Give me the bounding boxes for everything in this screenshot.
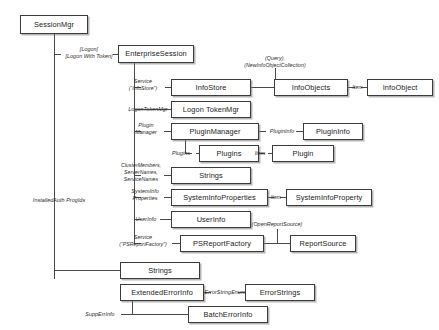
edge-label-cluster-members-line1: ClusterMembers,: [112, 162, 170, 169]
node-error-strings[interactable]: ErrorStrings: [245, 284, 315, 301]
edge-label-open-report-source: (OpenReportSource): [244, 221, 310, 228]
edge-label-query-line1: (Query),: [240, 55, 310, 62]
edge-label-plugin-info: PluginInfo: [263, 128, 301, 135]
edge-label-item-plugin: Item: [250, 150, 270, 157]
edge-label-item-info-object: Item: [348, 84, 367, 91]
edge-label-query-line2: (NewInfoObjectCollection): [240, 62, 310, 69]
node-info-object[interactable]: InfoObject: [367, 79, 433, 96]
edge-label-plugins: Plugins: [166, 150, 196, 157]
node-user-info[interactable]: UserInfo: [171, 211, 251, 228]
edge-label-plugin-manager: Plugin Manager: [124, 122, 168, 136]
node-logon-token-mgr[interactable]: Logon TokenMgr: [171, 101, 251, 118]
edge-label-system-info-properties-line2: Properties: [120, 195, 170, 202]
node-extended-error-info[interactable]: ExtendedErrorInfo: [120, 284, 204, 301]
edge-label-supp-err-info: SuppErrInfo: [79, 311, 121, 318]
edge-label-cluster-members: ClusterMembers, ServerNames, ServiceName…: [112, 162, 170, 182]
node-session-mgr[interactable]: SessionMgr: [20, 15, 88, 34]
edge-label-error-string-enum: ErrorStringEnum: [204, 289, 246, 296]
edge-label-service-infostore-line2: (“InfoStore”): [117, 85, 169, 92]
object-model-diagram: SessionMgr EnterpriseSession InfoStore I…: [0, 0, 439, 330]
edge-label-service-ps-report-factory-line2: (“PSReportFactory”): [106, 241, 180, 248]
edge-label-logon-line1: [Logon]: [61, 46, 117, 53]
node-strings-cluster[interactable]: Strings: [171, 167, 251, 184]
edge-label-item-system-info-property: Item: [266, 194, 286, 201]
node-plugin-info[interactable]: PluginInfo: [303, 123, 363, 140]
edge-label-service-infostore-line1: Service: [117, 78, 169, 85]
edge-label-service-ps-report-factory-line1: Service: [106, 234, 180, 241]
node-system-info-property[interactable]: SystemInfoProperty: [286, 189, 372, 206]
node-batch-error-info[interactable]: BatchErrorInfo: [188, 306, 268, 323]
node-info-store[interactable]: InfoStore: [171, 79, 251, 96]
node-plugin-manager[interactable]: PluginManager: [171, 123, 259, 140]
node-plugin[interactable]: Plugin: [272, 145, 334, 162]
edge-label-service-ps-report-factory: Service (“PSReportFactory”): [106, 234, 180, 248]
edge-label-plugin-manager-line1: Plugin: [124, 122, 168, 129]
node-system-info-properties[interactable]: SystemInfoProperties: [171, 189, 268, 206]
node-strings-auth[interactable]: Strings: [120, 262, 200, 279]
edge-label-logon: [Logon] [Logon With Token]: [61, 46, 117, 60]
edge-label-installed-auth-progids: InstalledAuth ProgIds: [20, 197, 98, 204]
edge-label-system-info-properties-line1: SystemInfo: [120, 188, 170, 195]
edge-label-cluster-members-line3: ServiceNames: [112, 176, 170, 183]
node-enterprise-session[interactable]: EnterpriseSession: [118, 45, 194, 63]
edge-label-logon-line2: [Logon With Token]: [61, 53, 117, 60]
edge-label-plugin-manager-line2: Manager: [124, 129, 168, 136]
edge-label-cluster-members-line2: ServerNames,: [112, 169, 170, 176]
edge-label-user-info: UserInfo: [127, 216, 165, 223]
node-info-objects[interactable]: InfoObjects: [274, 79, 348, 96]
edge-label-system-info-properties: SystemInfo Properties: [120, 188, 170, 202]
edge-label-logon-token-mgr: LogonTokenMgr: [125, 106, 171, 113]
edge-label-service-infostore: Service (“InfoStore”): [117, 78, 169, 92]
node-report-source[interactable]: ReportSource: [290, 235, 356, 252]
node-ps-report-factory[interactable]: PSReportFactory: [180, 235, 264, 252]
edge-label-query: (Query), (NewInfoObjectCollection): [240, 55, 310, 69]
